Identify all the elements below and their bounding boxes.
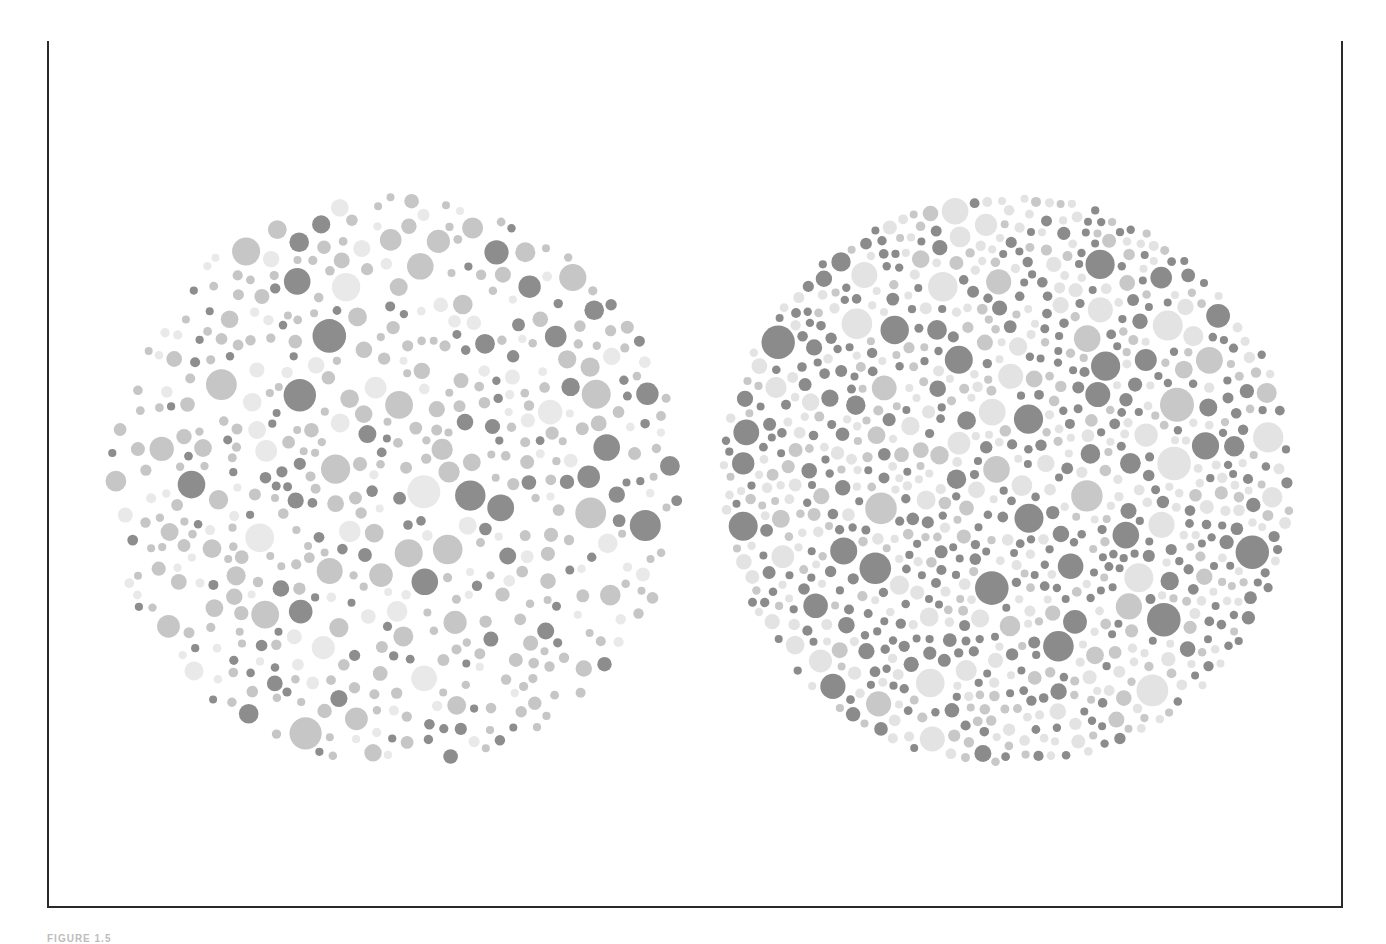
plate-dot <box>1175 361 1193 379</box>
plate-dot <box>1258 481 1266 489</box>
plate-dot <box>948 432 971 455</box>
plate-dot <box>1182 597 1191 606</box>
plate-dot <box>871 226 879 234</box>
plate-dot <box>255 440 277 462</box>
plate-dot <box>233 270 243 280</box>
plate-dot <box>176 429 191 444</box>
plate-dot <box>586 629 594 637</box>
plate-dot <box>1128 335 1138 345</box>
plate-dot <box>806 319 814 327</box>
plate-dot <box>574 320 586 332</box>
plate-dot <box>206 623 215 632</box>
plate-dot <box>917 462 925 470</box>
plate-dot <box>821 619 832 630</box>
plate-dot <box>1254 578 1262 586</box>
plate-dot <box>1273 545 1282 554</box>
plate-dot <box>152 562 166 576</box>
plate-dot <box>593 342 601 350</box>
plate-dot <box>1171 291 1179 299</box>
plate-dot <box>431 425 442 436</box>
plate-dot <box>494 394 503 403</box>
plate-dot <box>584 300 604 320</box>
plate-dot <box>417 209 429 221</box>
plate-dot <box>388 734 396 742</box>
plate-dot <box>1078 274 1087 283</box>
plate-dot <box>1200 500 1214 514</box>
plate-dot <box>389 706 399 716</box>
plate-dot <box>733 544 741 552</box>
plate-dot <box>1010 549 1018 557</box>
plate-dot <box>1226 562 1234 570</box>
plate-dot <box>803 594 828 619</box>
plate-dot <box>1116 690 1132 706</box>
plate-dot <box>1123 348 1131 356</box>
plate-dot <box>843 415 851 423</box>
plate-dot <box>1262 462 1271 471</box>
plate-dot <box>1157 496 1169 508</box>
plate-dot <box>479 397 491 409</box>
plate-dot <box>332 273 360 301</box>
plate-dot <box>393 438 403 448</box>
plate-dot <box>623 562 632 571</box>
plate-dot <box>511 689 519 697</box>
plate-dot <box>1113 666 1125 678</box>
plate-dot <box>457 414 474 431</box>
plate-dot <box>135 603 143 611</box>
plate-dot <box>414 363 430 379</box>
plate-dot <box>1264 583 1273 592</box>
plate-dot <box>266 333 275 342</box>
plate-dot <box>1109 583 1117 591</box>
plate-dot <box>1006 648 1018 660</box>
plate-dot <box>524 400 534 410</box>
plate-dot <box>757 403 765 411</box>
plate-dot <box>910 211 918 219</box>
plate-dot <box>1120 554 1128 562</box>
plate-dot <box>925 595 933 603</box>
plate-dot <box>539 382 550 393</box>
plate-dot <box>171 574 187 590</box>
plate-dot <box>737 487 745 495</box>
plate-dot <box>1007 439 1017 449</box>
plate-dot <box>1046 257 1061 272</box>
plate-dot <box>1081 444 1101 464</box>
plate-dot <box>495 533 503 541</box>
plate-dot <box>355 507 366 518</box>
plate-dot <box>1189 419 1197 427</box>
plate-dot <box>536 449 545 458</box>
plate-dot <box>158 543 166 551</box>
plate-dot <box>1000 705 1009 714</box>
plate-dot <box>1074 404 1083 413</box>
plate-dot <box>1002 604 1010 612</box>
plate-dot <box>983 670 991 678</box>
plate-dot <box>588 286 597 295</box>
plate-dot <box>901 600 910 609</box>
plate-dot <box>1200 279 1208 287</box>
plate-dot <box>895 517 904 526</box>
plate-dot <box>329 751 338 760</box>
plate-dot <box>1274 463 1285 474</box>
plate-dot <box>185 661 204 680</box>
plate-dot <box>935 601 943 609</box>
plate-dot <box>1258 523 1266 531</box>
plate-dot <box>1243 474 1253 484</box>
plate-dot <box>858 537 868 547</box>
plate-dot <box>995 438 1004 447</box>
plate-dot <box>1133 704 1143 714</box>
plate-dot <box>913 557 922 566</box>
plate-dot <box>276 466 287 477</box>
plate-dot <box>859 385 867 393</box>
plate-dot <box>235 550 249 564</box>
plate-dot <box>1188 289 1196 297</box>
plate-dot <box>1100 739 1108 747</box>
plate-dot <box>520 437 530 447</box>
plate-dot <box>401 219 416 234</box>
plate-dot <box>932 240 947 255</box>
plate-dot <box>910 586 924 600</box>
plate-dot <box>474 382 484 392</box>
plate-dot <box>883 262 891 270</box>
plate-dot <box>794 543 802 551</box>
plate-dot <box>1144 402 1153 411</box>
plate-dot <box>271 663 280 672</box>
plate-dot <box>233 289 244 300</box>
plate-dot <box>1025 210 1034 219</box>
